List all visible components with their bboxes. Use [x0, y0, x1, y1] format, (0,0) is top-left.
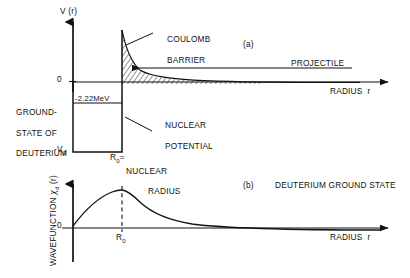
panel-a-y-axis-label: V (r) [60, 6, 77, 16]
coulomb-barrier-label: COULOMB BARRIER [157, 24, 210, 75]
nuclear-potential-well [73, 30, 122, 152]
nuclear-radius-label: R0= NUCLEAR RADIUS [110, 152, 181, 207]
projectile-label: PROJECTILE [291, 58, 344, 68]
panel-a-x-axis-label: RADIUS r [330, 86, 371, 96]
nuclear-potential-leader-line [125, 117, 152, 131]
panel-a-caption: (a) [243, 39, 254, 49]
panel-b-r0-tick-label: R0 [116, 232, 126, 246]
binding-energy-label: -2.22MeV [75, 94, 110, 104]
figure-canvas: V (r) 0 -V0 -2.22MeV GROUND- STATE OF DE… [0, 0, 410, 278]
coulomb-barrier-leader-line [126, 33, 153, 45]
panel-b-caption: (b) [243, 180, 254, 190]
panel-a-zero-tick-label: 0 [57, 74, 62, 84]
panel-b-zero-tick-label: 0 [57, 220, 62, 230]
panel-b-caption-text: DEUTERIUM GROUND STATE [275, 180, 396, 190]
panel-b-x-axis-label: RADIUS r [330, 232, 371, 242]
ground-state-label: GROUND- STATE OF DEUTERIUM [6, 97, 67, 168]
